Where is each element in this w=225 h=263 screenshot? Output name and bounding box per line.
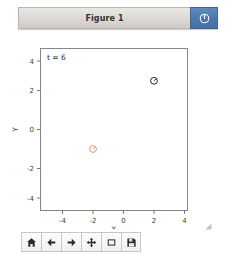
y-tick-label: 2 [30,87,34,95]
resize-grip[interactable] [204,222,213,231]
zoom-button[interactable] [101,232,121,252]
scatter-plot[interactable]: 4 2 0 -2 -4 -4 -2 0 2 4 X Y t = 6 [0,33,225,229]
forward-button[interactable] [61,232,81,252]
y-tick-label: 0 [30,126,34,134]
figure-window: Figure 1 [0,0,225,263]
figure-canvas[interactable]: 4 2 0 -2 -4 -4 -2 0 2 4 X Y t = 6 [0,33,225,229]
rectangle-icon [106,237,117,248]
x-tick-label: -4 [59,217,67,225]
arrow-right-icon [66,237,77,248]
navigation-toolbar[interactable] [21,232,141,252]
x-axis-label: X [111,225,116,229]
titlebar-background: Figure 1 [18,7,190,29]
pan-button[interactable] [81,232,101,252]
y-tick-label: -2 [27,165,34,173]
arrow-left-icon [46,237,57,248]
floppy-disk-icon [126,237,137,248]
y-tick-label: -4 [27,195,35,203]
x-tick-label: 2 [152,217,156,225]
axes-frame [41,49,188,211]
home-button[interactable] [21,232,41,252]
close-button[interactable] [190,7,218,29]
x-tick-label: 4 [182,217,187,225]
move-icon [86,237,97,248]
power-icon [199,13,210,24]
home-icon [26,237,37,248]
x-tick-label: 0 [121,217,125,225]
back-button[interactable] [41,232,61,252]
y-tick-label: 4 [30,58,35,66]
x-tick-label: -2 [90,217,97,225]
y-axis-label: Y [11,127,20,133]
time-annotation: t = 6 [47,53,66,62]
window-title: Figure 1 [85,14,123,23]
save-button[interactable] [121,232,141,252]
window-titlebar[interactable]: Figure 1 [18,7,218,29]
